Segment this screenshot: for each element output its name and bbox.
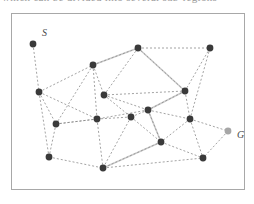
graph-node [128,114,135,121]
graph-edge [33,44,39,92]
graph-node [200,155,207,162]
graph-edge [104,95,148,110]
graph-edge [97,117,131,119]
graph-edge [190,48,210,119]
graph-canvas: SG [0,0,254,204]
graph-node [100,165,107,172]
graph-edge-layer [33,44,228,168]
graph-edge [39,65,93,92]
graph-edge [148,110,190,119]
graph-node [101,92,108,99]
graph-edge [93,65,97,119]
graph-edge [185,48,210,91]
graph-label-layer: SG [42,27,244,140]
graph-node [207,45,214,52]
graph-edge [190,119,228,131]
graph-edge [56,119,97,124]
graph-node [94,116,101,123]
graph-edge [97,119,103,168]
graph-figure: which can be divided into several sub-re… [0,0,254,204]
graph-edge [39,92,97,119]
start-node [30,41,37,48]
solution-path-layer [93,48,185,168]
graph-edge [148,110,161,142]
graph-edge [185,91,190,119]
graph-node [135,45,142,52]
graph-edge [103,158,203,168]
graph-node [46,154,53,161]
graph-edge [190,119,203,158]
graph-node [158,139,165,146]
graph-node [145,107,152,114]
graph-edge [103,117,131,168]
graph-edge [49,124,56,157]
graph-node [90,62,97,69]
start-node-label: S [42,27,47,38]
graph-edge [104,91,185,95]
graph-edge [161,119,190,142]
graph-node [182,88,189,95]
graph-node [187,116,194,123]
graph-edge [203,131,228,158]
goal-node [225,128,232,135]
graph-node [36,89,43,96]
graph-edge [39,92,49,157]
graph-edge [49,157,103,168]
graph-node-layer [30,41,232,172]
graph-edge [56,65,93,124]
figure-border [12,14,245,190]
graph-edge [161,142,203,158]
graph-node [53,121,60,128]
goal-node-label: G [237,129,244,140]
